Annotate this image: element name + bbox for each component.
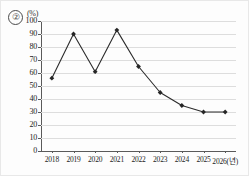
chart-figure: ② (%) 0102030405060708090100 20182019202…: [0, 0, 249, 176]
line-series: [41, 21, 236, 151]
y-tick-label-100: 100: [7, 16, 37, 25]
y-tick-label-0: 0: [7, 146, 37, 155]
y-tick-label-50: 50: [7, 81, 37, 90]
x-tick-2020: [95, 151, 96, 153]
x-tick-label-2020: 2020: [88, 155, 102, 164]
y-tick-label-40: 40: [7, 94, 37, 103]
series-1-line: [52, 30, 225, 112]
data-point-2026: [223, 110, 228, 115]
data-point-2025: [201, 110, 206, 115]
y-tick-label-60: 60: [7, 68, 37, 77]
x-tick-label-2024: 2024: [175, 155, 189, 164]
x-tick-label-2023: 2023: [153, 155, 167, 164]
data-point-2021: [114, 28, 119, 33]
x-tick-label-2019: 2019: [66, 155, 80, 164]
y-tick-label-20: 20: [7, 120, 37, 129]
x-tick-2019: [74, 151, 75, 153]
x-tick-2023: [160, 151, 161, 153]
x-tick-2024: [182, 151, 183, 153]
y-tick-0: [38, 151, 41, 152]
x-tick-label-2026: 2026(년): [212, 155, 238, 166]
x-tick-2018: [52, 151, 53, 153]
x-tick-2026: [225, 151, 226, 153]
x-tick-label-2021: 2021: [110, 155, 124, 164]
plot-area: 0102030405060708090100 20182019202020212…: [41, 21, 236, 151]
y-tick-label-90: 90: [7, 29, 37, 38]
x-tick-label-2025: 2025: [196, 155, 210, 164]
y-tick-label-70: 70: [7, 55, 37, 64]
data-point-2024: [179, 103, 184, 108]
data-point-2019: [71, 32, 76, 37]
data-point-2020: [93, 69, 98, 74]
x-tick-label-2022: 2022: [131, 155, 145, 164]
y-tick-label-80: 80: [7, 42, 37, 51]
x-tick-2022: [139, 151, 140, 153]
y-tick-label-10: 10: [7, 133, 37, 142]
x-tick-2021: [117, 151, 118, 153]
x-tick-label-2018: 2018: [45, 155, 59, 164]
series-1-markers: [49, 28, 227, 115]
y-tick-label-30: 30: [7, 107, 37, 116]
x-tick-2025: [204, 151, 205, 153]
data-point-2018: [49, 76, 54, 81]
